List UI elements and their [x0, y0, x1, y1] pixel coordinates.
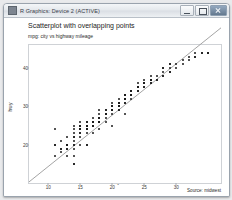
- y-axis-title: hwy: [7, 103, 13, 112]
- plot-subtitle: mpg: city vs highway mileage: [28, 33, 93, 39]
- data-point: [73, 144, 75, 146]
- data-point: [169, 63, 171, 65]
- data-point: [92, 125, 94, 127]
- data-point: [105, 121, 107, 123]
- x-axis-tick-label: 20: [110, 185, 115, 190]
- plot-canvas: Scatterplot with overlapping points mpg:…: [4, 18, 229, 196]
- data-point: [188, 56, 190, 58]
- data-point: [207, 52, 209, 54]
- plot-panel: 2030401015202530: [28, 44, 222, 184]
- r-graphics-icon: [8, 6, 17, 15]
- data-point: [105, 113, 107, 115]
- data-point: [124, 98, 126, 100]
- data-point: [137, 90, 139, 92]
- close-button[interactable]: [210, 5, 227, 16]
- x-axis-tick-label: 30: [174, 185, 179, 190]
- data-point: [111, 102, 113, 104]
- data-point: [86, 121, 88, 123]
- data-point: [79, 125, 81, 127]
- data-point: [73, 132, 75, 134]
- data-point: [60, 148, 62, 150]
- data-point: [73, 125, 75, 127]
- data-point: [156, 79, 158, 81]
- window-title-bar[interactable]: R Graphics: Device 2 (ACTIVE): [4, 4, 229, 18]
- data-point: [54, 155, 56, 157]
- data-point: [124, 102, 126, 104]
- data-point: [150, 75, 152, 77]
- plot-title: Scatterplot with overlapping points: [28, 22, 135, 29]
- x-axis-tick-mark: [48, 183, 49, 185]
- data-point: [92, 121, 94, 123]
- data-point: [79, 121, 81, 123]
- x-axis-tick-mark: [112, 183, 113, 185]
- data-point: [124, 113, 126, 115]
- data-point: [182, 63, 184, 65]
- y-axis-tick-mark: [27, 68, 29, 69]
- x-axis-tick-label: 10: [46, 185, 51, 190]
- minimize-button[interactable]: [180, 5, 194, 16]
- data-point: [143, 79, 145, 81]
- data-point: [105, 109, 107, 111]
- data-point: [86, 125, 88, 127]
- data-point: [150, 79, 152, 81]
- data-point: [156, 75, 158, 77]
- data-point: [73, 140, 75, 142]
- data-point: [86, 144, 88, 146]
- y-axis-tick-mark: [27, 106, 29, 107]
- data-point: [118, 98, 120, 100]
- data-point: [169, 71, 171, 73]
- data-point: [105, 117, 107, 119]
- data-point: [169, 67, 171, 69]
- x-axis-tick-label: 15: [78, 185, 83, 190]
- data-point: [118, 102, 120, 104]
- x-axis-tick-mark: [80, 183, 81, 185]
- data-point: [79, 144, 81, 146]
- data-point: [124, 94, 126, 96]
- plot-caption: Source: midwest: [187, 188, 221, 193]
- data-point: [73, 163, 75, 165]
- data-point: [118, 109, 120, 111]
- window-title: R Graphics: Device 2 (ACTIVE): [20, 7, 100, 13]
- data-point: [137, 86, 139, 88]
- data-point: [73, 136, 75, 138]
- window-controls: [180, 5, 227, 16]
- data-point: [54, 144, 56, 146]
- data-point: [60, 140, 62, 142]
- data-point: [111, 125, 113, 127]
- data-point: [73, 148, 75, 150]
- x-axis-tick-mark: [176, 183, 177, 185]
- maximize-button[interactable]: [195, 5, 209, 16]
- data-point: [92, 117, 94, 119]
- r-graphics-window: R Graphics: Device 2 (ACTIVE) Scatterplo…: [3, 3, 230, 197]
- y-axis-tick-mark: [27, 144, 29, 145]
- data-point: [201, 52, 203, 54]
- data-point: [86, 132, 88, 134]
- data-point: [73, 155, 75, 157]
- x-axis-tick-mark: [144, 183, 145, 185]
- x-axis-tick-label: 25: [142, 185, 147, 190]
